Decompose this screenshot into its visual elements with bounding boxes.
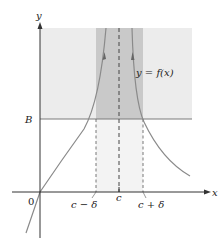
origin-label: 0 (28, 196, 34, 207)
tick-c-plus-delta (143, 192, 146, 198)
x-axis-label: x (212, 187, 218, 198)
B-label: B (24, 114, 32, 125)
c-plus-delta-label: c + δ (138, 199, 164, 210)
y-axis-arrow-icon (38, 22, 43, 29)
y-axis-label: y (35, 10, 42, 21)
limit-infinity-diagram: y x 0 B c − δ c c + δ y = f(x) (0, 0, 220, 244)
c-label: c (116, 192, 122, 203)
curve-label: y = f(x) (135, 67, 174, 78)
tick-c-minus-delta (92, 192, 96, 198)
x-axis-arrow-icon (204, 190, 211, 195)
c-minus-delta-label: c − δ (71, 199, 97, 210)
